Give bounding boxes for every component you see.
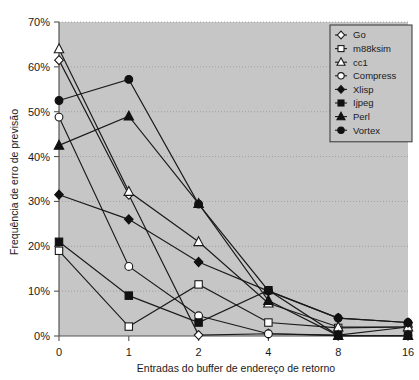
legend-item-label: Xlisp [353, 84, 374, 95]
y-tick-label: 30% [28, 195, 50, 207]
y-tick-label: 0% [34, 330, 50, 342]
y-tick-label: 20% [28, 240, 50, 252]
y-axis-title: Frequência de erro de previsão [8, 109, 20, 255]
chart-container: 0%10%20%30%40%50%60%70% 0124816 Gom88ksi… [0, 0, 419, 380]
prediction-error-line-chart: 0%10%20%30%40%50%60%70% 0124816 Gom88ksi… [0, 0, 419, 380]
y-tick-label: 40% [28, 151, 50, 163]
y-tick-label: 70% [28, 16, 50, 28]
x-tick-label: 8 [335, 346, 341, 358]
x-tick-label: 2 [196, 346, 202, 358]
x-tick-label: 4 [265, 346, 271, 358]
y-tick-label: 50% [28, 106, 50, 118]
chart-legend[interactable]: Gom88ksimcc1CompressXlispIjpegPerlVortex [330, 25, 412, 142]
y-tick-label: 60% [28, 61, 50, 73]
x-tick-label: 1 [126, 346, 132, 358]
x-tick-label: 16 [402, 346, 414, 358]
legend-item-label: m88ksim [353, 43, 391, 54]
legend-item-label: Perl [353, 111, 370, 122]
legend-item-label: Go [353, 29, 366, 40]
legend-item-label: cc1 [353, 57, 368, 68]
y-tick-label: 10% [28, 285, 50, 297]
x-tick-label: 0 [56, 346, 62, 358]
legend-item-label: Ijpeg [353, 97, 374, 108]
legend-item-label: Vortex [353, 125, 380, 136]
legend-item-xlisp[interactable]: Xlisp [335, 84, 374, 95]
x-axis-title: Entradas do buffer de endereço de retorn… [137, 362, 335, 374]
legend-item-label: Compress [353, 70, 397, 81]
